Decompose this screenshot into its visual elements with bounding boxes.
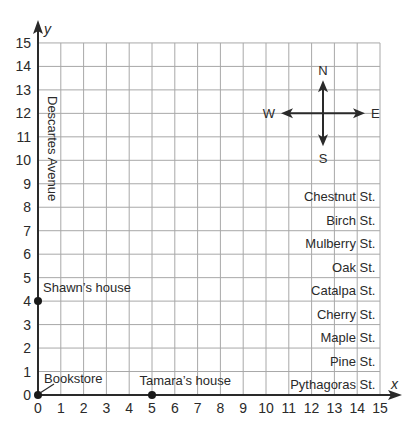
y-tick-label: 9	[23, 176, 31, 192]
coordinate-map: 0123456789101112131415012345678910111213…	[0, 0, 414, 432]
street-labels: Pythagoras St.Pine St.Maple St.Cherry St…	[290, 186, 379, 392]
street-label: Mulberry St.	[305, 236, 375, 251]
y-tick-label: 0	[23, 387, 31, 403]
x-tick-label: 0	[34, 400, 42, 416]
street-label: Pythagoras St.	[290, 377, 375, 392]
x-tick-label: 4	[125, 400, 133, 416]
x-tick-label: 1	[57, 400, 65, 416]
shawns-house-label: Shawn’s house	[43, 280, 131, 295]
street-label: Pine St.	[330, 354, 376, 369]
points: BookstoreTamara’s houseShawn’s house	[34, 280, 231, 399]
x-tick-label: 6	[171, 400, 179, 416]
y-tick-label: 12	[15, 105, 31, 121]
bookstore-label: Bookstore	[44, 371, 103, 386]
x-tick-label: 12	[304, 400, 320, 416]
x-tick-label: 10	[258, 400, 274, 416]
street-label: Catalpa St.	[311, 283, 375, 298]
y-tick-label: 4	[23, 293, 31, 309]
y-tick-label: 6	[23, 246, 31, 262]
x-tick-label: 7	[194, 400, 202, 416]
street-label: Chestnut St.	[304, 189, 376, 204]
street-label: Maple St.	[321, 330, 376, 345]
x-tick-label: 8	[217, 400, 225, 416]
y-tick-label: 8	[23, 199, 31, 215]
x-tick-label: 11	[282, 400, 297, 416]
x-tick-label: 9	[239, 400, 247, 416]
y-tick-label: 11	[16, 129, 31, 145]
compass-rose-icon: NSWE	[263, 63, 380, 166]
compass-s: S	[319, 151, 328, 166]
x-tick-label: 5	[148, 400, 156, 416]
street-label: Cherry St.	[317, 307, 376, 322]
y-tick-label: 7	[23, 223, 31, 239]
y-tick-label: 5	[23, 270, 31, 286]
street-label: Birch St.	[326, 213, 375, 228]
x-tick-label: 13	[327, 400, 343, 416]
x-tick-label: 2	[80, 400, 88, 416]
x-axis-label: x	[390, 376, 399, 392]
x-tick-label: 15	[372, 400, 388, 416]
y-axis-label: y	[43, 21, 52, 37]
x-tick-label: 3	[103, 400, 111, 416]
compass-w: W	[263, 106, 276, 121]
compass-n: N	[318, 63, 327, 78]
x-tick-label: 14	[349, 400, 365, 416]
compass-e: E	[371, 106, 380, 121]
map-point	[148, 391, 156, 399]
y-tick-label: 13	[15, 82, 31, 98]
y-tick-label: 2	[23, 340, 31, 356]
map-point	[34, 297, 42, 305]
y-tick-label: 1	[23, 364, 31, 380]
y-tick-label: 14	[15, 58, 31, 74]
street-label: Oak St.	[332, 260, 375, 275]
y-tick-label: 10	[15, 152, 31, 168]
y-tick-label: 15	[15, 35, 31, 51]
y-tick-label: 3	[23, 317, 31, 333]
descartes-avenue-label: Descartes Avenue	[45, 96, 60, 201]
tamaras-house-label: Tamara’s house	[139, 373, 231, 388]
